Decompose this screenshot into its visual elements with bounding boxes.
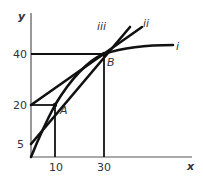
y-axis-label: y — [18, 10, 26, 23]
curve-i-label: i — [176, 40, 179, 53]
y-tick-40: 40 — [13, 48, 27, 61]
line-iii — [31, 27, 130, 144]
x-axis-label: x — [186, 160, 195, 173]
y-tick-20: 20 — [13, 99, 27, 112]
point-a-marker — [53, 103, 57, 107]
line-ii — [31, 27, 142, 105]
x-tick-10: 10 — [49, 161, 63, 174]
line-ii-label: ii — [143, 17, 149, 30]
y-tick-5: 5 — [17, 138, 24, 151]
point-b-marker — [102, 52, 106, 56]
x-tick-30: 30 — [97, 161, 111, 174]
line-iii-label: iii — [97, 20, 106, 33]
point-b-label: B — [107, 56, 115, 69]
diagram-canvas: y x 40 20 5 10 30 A B i ii iii — [0, 0, 203, 181]
point-a-label: A — [59, 104, 68, 117]
